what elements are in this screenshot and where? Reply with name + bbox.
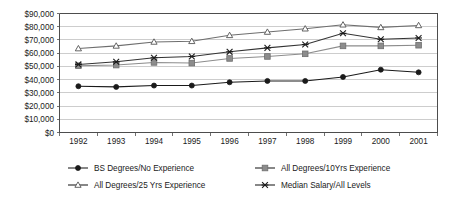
data-point (227, 80, 232, 85)
x-axis-tick-label: 1994 (145, 137, 164, 146)
y-axis-tick-label: $90,000 (24, 10, 54, 19)
x-axis-tick-label: 1999 (334, 137, 353, 146)
x-axis-tick-label: 1998 (296, 137, 315, 146)
x-axis-tick-label: 1992 (69, 137, 88, 146)
y-axis-tick-label: $50,000 (24, 62, 54, 71)
data-point (378, 67, 383, 72)
y-axis-tick-label: $10,000 (24, 115, 54, 124)
data-point (416, 70, 421, 75)
data-point (114, 84, 119, 89)
legend-label: All Degrees/10Yrs Experience (281, 164, 391, 173)
data-point (416, 42, 422, 48)
data-point (378, 43, 384, 49)
y-axis-tick-label: $80,000 (24, 23, 54, 32)
data-point (341, 74, 346, 79)
legend-label: BS Degrees/No Experience (94, 164, 195, 173)
y-axis-tick-label: $40,000 (24, 76, 54, 85)
data-point (303, 78, 308, 83)
x-axis-tick-label: 1997 (258, 137, 277, 146)
y-axis-tick-label: $60,000 (24, 49, 54, 58)
data-point (189, 83, 194, 88)
x-axis-tick-label: 1993 (107, 137, 126, 146)
data-point (340, 43, 346, 49)
legend-label: Median Salary/All Levels (281, 181, 371, 190)
x-axis-tick-label: 2000 (372, 137, 391, 146)
legend-marker-icon (262, 165, 268, 171)
legend-marker-icon (76, 166, 81, 171)
y-axis-tick-label: $30,000 (24, 89, 54, 98)
data-point (189, 60, 195, 66)
data-point (302, 51, 308, 57)
y-axis-tick-label: $70,000 (24, 36, 54, 45)
salary-trends-chart: $0$10,000$20,000$30,000$40,000$50,000$60… (0, 0, 449, 198)
data-point (265, 78, 270, 83)
chart-canvas: $0$10,000$20,000$30,000$40,000$50,000$60… (0, 0, 449, 198)
y-axis-tick-label: $20,000 (24, 102, 54, 111)
y-axis-tick-label: $0 (45, 129, 55, 138)
data-point (227, 56, 233, 62)
x-axis-tick-label: 2001 (409, 137, 428, 146)
data-point (265, 54, 271, 60)
data-point (152, 83, 157, 88)
x-axis-tick-label: 1995 (183, 137, 202, 146)
data-point (76, 84, 81, 89)
x-axis-tick-label: 1996 (220, 137, 239, 146)
legend-label: All Degrees/25 Yrs Experience (94, 181, 206, 190)
